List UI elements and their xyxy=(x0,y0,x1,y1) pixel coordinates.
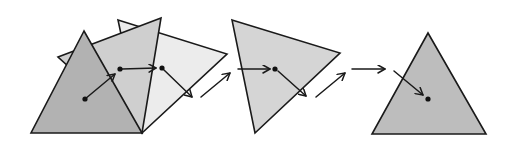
second-triangle xyxy=(232,20,340,133)
arrow-transition-2-icon xyxy=(316,73,345,97)
point-mid xyxy=(117,66,122,71)
point-start xyxy=(82,96,87,101)
final-triangle xyxy=(372,33,486,134)
point-second xyxy=(272,66,277,71)
diagram-canvas xyxy=(0,0,512,160)
triangles-layer xyxy=(31,18,486,134)
arrow-rotate-2-icon xyxy=(122,68,156,69)
point-final xyxy=(425,96,430,101)
triangle-transformation-diagram xyxy=(0,0,512,160)
arrow-transition-1-icon xyxy=(201,73,230,97)
point-end xyxy=(159,65,164,70)
